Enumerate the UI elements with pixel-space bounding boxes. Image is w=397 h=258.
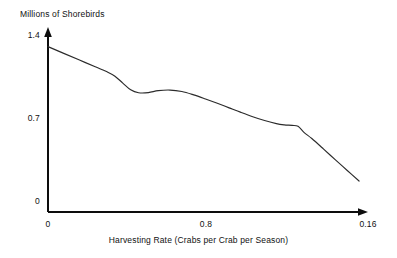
- x-axis-title: Harvesting Rate (Crabs per Crab per Seas…: [0, 235, 397, 245]
- y-axis-tick-label-1.4: 1.4: [6, 30, 40, 40]
- y-axis-tick-label-0: 0: [6, 196, 40, 206]
- y-axis: [44, 27, 52, 212]
- y-axis-tick-label-0.7: 0.7: [6, 113, 40, 123]
- x-axis: [48, 208, 368, 216]
- x-axis-tick-label-0.8: 0.8: [186, 219, 226, 229]
- x-axis-tick-label-0.16: 0.16: [348, 219, 388, 229]
- y-axis-title: Millions of Shorebirds: [20, 9, 105, 19]
- chart-figure: Millions of Shorebirds 1.4 0.7 0 0 0.8 0…: [0, 0, 397, 258]
- y-axis-arrowhead: [44, 27, 52, 37]
- x-axis-arrowhead: [358, 208, 368, 216]
- data-series-line: [48, 47, 359, 181]
- x-axis-tick-label-0: 0: [28, 219, 68, 229]
